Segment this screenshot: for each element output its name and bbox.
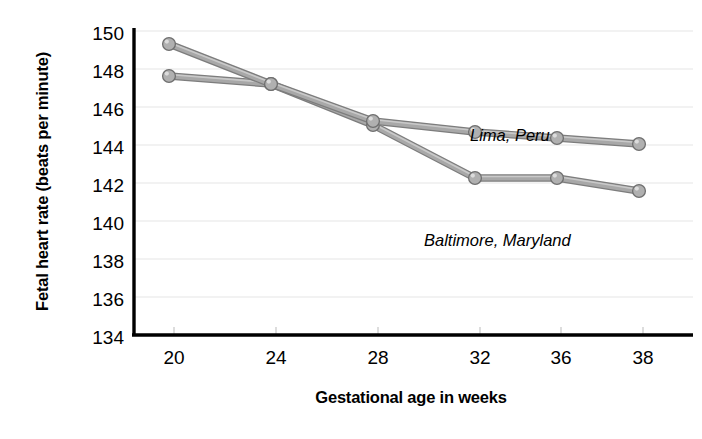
- data-point: [163, 38, 176, 51]
- series-label-baltimore-maryland: Baltimore, Maryland: [424, 231, 571, 250]
- marker-specular-highlight: [369, 117, 373, 121]
- x-tick-label: 24: [241, 348, 311, 367]
- data-point: [469, 172, 482, 185]
- marker-specular-highlight: [165, 40, 169, 44]
- x-tick-label: 28: [343, 348, 413, 367]
- chart-figure: Fetal heart rate (beats per minute) 150 …: [0, 0, 702, 439]
- data-point: [633, 138, 646, 151]
- x-tick-label: 38: [608, 348, 678, 367]
- marker-specular-highlight: [165, 72, 169, 76]
- series-label-lima-peru: Lima, Peru: [470, 126, 550, 145]
- x-tick-label: 36: [526, 348, 596, 367]
- series-line: [169, 44, 639, 144]
- marker-specular-highlight: [635, 187, 639, 191]
- marker-specular-highlight: [471, 174, 475, 178]
- x-tick-label: 32: [445, 348, 515, 367]
- data-point: [551, 132, 564, 145]
- marker-specular-highlight: [553, 134, 557, 138]
- data-point: [633, 185, 646, 198]
- series-lima-peru: [163, 38, 646, 151]
- series-line: [169, 76, 639, 191]
- data-point: [265, 78, 278, 91]
- series-baltimore-maryland: [163, 70, 646, 198]
- data-point: [367, 115, 380, 128]
- data-point: [551, 172, 564, 185]
- series-markers: [163, 38, 646, 151]
- marker-specular-highlight: [267, 80, 271, 84]
- data-point: [163, 70, 176, 83]
- gridlines: [133, 31, 693, 297]
- x-axis-title: Gestational age in weeks: [131, 388, 691, 407]
- marker-specular-highlight: [635, 140, 639, 144]
- plot-area: [0, 0, 702, 439]
- series-line-highlight: [169, 75, 639, 190]
- marker-specular-highlight: [553, 174, 557, 178]
- x-tick-label: 20: [139, 348, 209, 367]
- series-line-outline: [169, 44, 639, 144]
- series-line-outline: [169, 76, 639, 191]
